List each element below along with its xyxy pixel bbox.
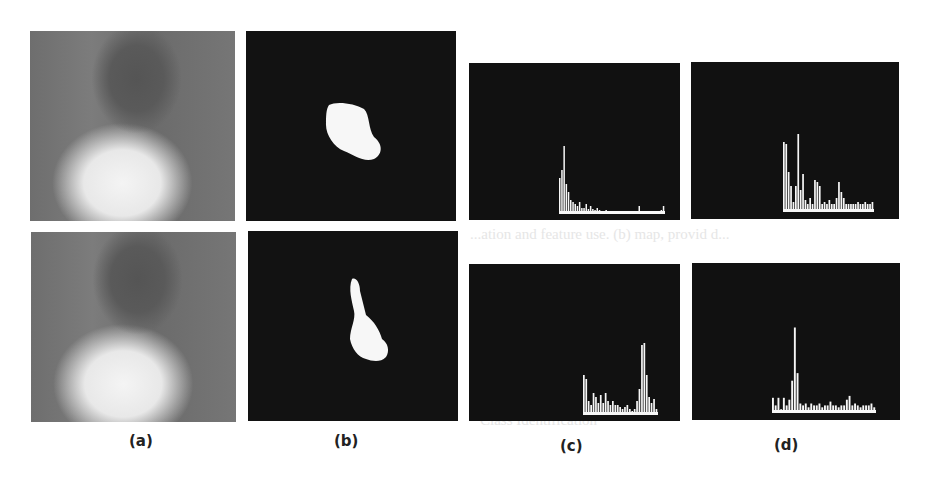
histogram-bar (860, 204, 862, 212)
histogram-bar (563, 146, 565, 214)
histogram-bar (583, 375, 585, 415)
histogram-bar (614, 211, 616, 214)
histogram-bar (619, 212, 621, 214)
histogram-bar (575, 204, 577, 214)
histogram-bar (778, 398, 780, 413)
histogram-bar (812, 204, 814, 212)
caption-a: (a) (129, 432, 153, 450)
ghost-text-line-1 (480, 6, 484, 23)
histogram-bar (631, 411, 633, 415)
ghost-text-line-2: ...ation and feature use. (b) map, provi… (470, 226, 730, 243)
histogram-bar (641, 212, 643, 214)
histogram-bar (590, 405, 592, 415)
histogram-bar (772, 398, 774, 413)
histogram-bar (646, 375, 648, 415)
mask-pointing-gesture (248, 231, 458, 421)
histogram-bar (788, 172, 790, 212)
histogram-bar (593, 393, 595, 415)
histogram-bar (836, 198, 838, 212)
histogram-bar (809, 198, 811, 212)
histogram-bar (819, 404, 821, 414)
histogram-bar (791, 381, 793, 413)
histogram-bar (873, 407, 875, 413)
histogram-bar (650, 212, 652, 214)
histogram-bar (850, 204, 852, 212)
histogram-bar (658, 212, 660, 214)
histogram-bar (641, 345, 643, 415)
histogram-bar (643, 212, 645, 214)
histogram-bar (597, 208, 599, 214)
histogram-bar (817, 182, 819, 212)
histogram-bar (840, 405, 842, 413)
histogram-bar (865, 405, 867, 413)
histogram-bar (627, 405, 629, 415)
histogram-bar (610, 405, 612, 415)
histogram-bottom-c (469, 264, 680, 421)
histogram-bar (826, 204, 828, 212)
histogram-bar (821, 407, 823, 413)
histogram-bar (807, 204, 809, 212)
histogram-top-d (691, 62, 899, 219)
histogram-bar (799, 404, 801, 414)
histogram-bar (583, 208, 585, 214)
histogram-bar (561, 170, 563, 214)
histogram-bar (653, 399, 655, 415)
histogram-bar (639, 206, 641, 214)
histogram-bar (661, 210, 663, 214)
histogram-bar (651, 403, 653, 415)
hand-mask-shape (246, 31, 456, 221)
histogram-bar (786, 405, 788, 413)
histogram-bar (846, 400, 848, 413)
histogram-bar (824, 202, 826, 212)
histogram-bar (830, 402, 832, 413)
histogram-bar (654, 212, 656, 214)
histogram-bar (814, 180, 816, 212)
histogram-bar (845, 204, 847, 212)
histogram-bar (601, 211, 603, 214)
histogram-bar (824, 405, 826, 413)
histogram-bar (622, 409, 624, 415)
histogram-top-c (469, 63, 680, 220)
histogram-bar (868, 405, 870, 413)
histogram-bar (579, 202, 581, 214)
histogram-bar (860, 407, 862, 413)
histogram-bar (566, 184, 568, 214)
histogram-bar (816, 405, 818, 413)
histogram-bar (616, 211, 618, 214)
histogram-bar (833, 204, 835, 212)
histogram-bar (832, 405, 834, 413)
histogram-bar (619, 407, 621, 415)
histogram-bar (780, 409, 782, 413)
histogram-bar (862, 204, 864, 212)
histogram-bar (813, 405, 815, 413)
histogram-bar (605, 393, 607, 415)
histogram-bar (871, 404, 873, 414)
histogram-bar (805, 404, 807, 414)
histogram-bar (838, 182, 840, 212)
histogram-bar (838, 407, 840, 413)
histogram-bar (632, 212, 634, 214)
histogram-bar (788, 400, 790, 413)
histogram-bar (610, 211, 612, 214)
histogram-bar (648, 397, 650, 415)
histogram-bar (848, 204, 850, 212)
histogram-bar (810, 404, 812, 414)
caption-d: (d) (774, 436, 798, 454)
histogram-bar (854, 404, 856, 414)
histogram-bar (615, 405, 617, 415)
histogram-bar (625, 212, 627, 214)
histogram-bar (636, 401, 638, 415)
histogram-bar (572, 202, 574, 214)
histogram-bar (586, 204, 588, 214)
histogram-bar (802, 405, 804, 413)
histogram-bar (630, 211, 632, 214)
histogram-bar (644, 343, 646, 415)
histogram-bar (634, 409, 636, 415)
histogram-bar (783, 142, 785, 212)
histogram-bar (795, 186, 797, 212)
histogram-bar (864, 202, 866, 212)
histogram-bar (800, 190, 802, 212)
histogram-bar (639, 389, 641, 415)
histogram-bar (869, 204, 871, 212)
histogram-bar (656, 409, 658, 415)
